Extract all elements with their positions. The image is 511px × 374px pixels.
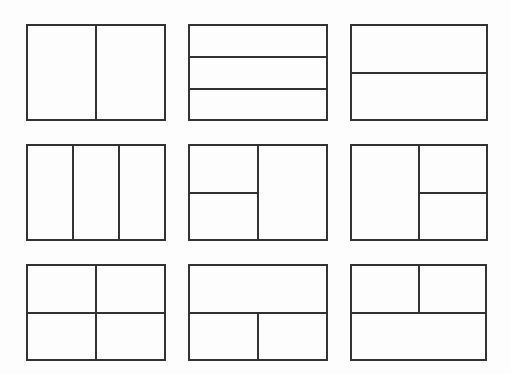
layout-two-columns xyxy=(26,24,166,121)
layout-left-full-right-split xyxy=(350,144,488,241)
vertical-divider xyxy=(257,312,259,361)
layout-top-split-bottom-full xyxy=(350,264,487,361)
layout-four-quadrants xyxy=(26,264,166,361)
horizontal-divider xyxy=(418,192,488,194)
horizontal-divider xyxy=(188,192,258,194)
layout-two-rows xyxy=(350,24,488,121)
vertical-divider xyxy=(72,144,74,241)
layout-top-full-bottom-split xyxy=(188,264,328,361)
horizontal-divider xyxy=(26,312,166,314)
layout-three-rows xyxy=(188,24,328,121)
layout-left-split-right-full xyxy=(188,144,328,241)
layout-three-columns xyxy=(26,144,166,241)
horizontal-divider xyxy=(350,72,488,74)
horizontal-divider xyxy=(188,88,328,90)
vertical-divider xyxy=(418,264,420,313)
horizontal-divider xyxy=(188,56,328,58)
vertical-divider xyxy=(95,24,97,121)
vertical-divider xyxy=(118,144,120,241)
